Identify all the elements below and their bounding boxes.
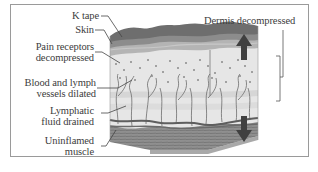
label-pain-receptors-line1: Pain receptors [14,41,94,52]
label-lymphatic-line1: Lymphatic [14,105,94,116]
label-k-tape: K tape [50,10,99,21]
label-blood-lymph-line2: vessels dilated [14,88,96,99]
dermis-layer [110,44,258,129]
dermis-bracket [276,30,283,101]
label-skin: Skin [50,24,94,35]
label-muscle-line1: Uninflamed [14,135,94,146]
label-pain-receptors-line2: decompressed [14,52,94,63]
label-lymphatic-line2: fluid drained [14,116,94,127]
label-blood-lymph-line1: Blood and lymph [14,77,96,88]
label-muscle-line2: muscle [14,146,94,157]
label-dermis-decompressed: Dermis decompressed [204,15,295,26]
